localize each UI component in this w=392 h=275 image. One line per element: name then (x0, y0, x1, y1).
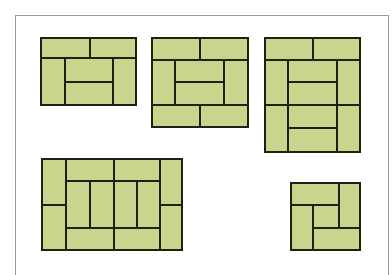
tatami-mat (151, 59, 176, 106)
tatami-mat (113, 227, 161, 251)
tatami-mat (336, 59, 361, 106)
tatami-mat (174, 81, 225, 106)
tatami-mat (40, 57, 66, 106)
tatami-mat (312, 37, 361, 61)
tatami-mat (312, 227, 361, 251)
tatami-mat (287, 127, 338, 153)
tatami-mat (65, 180, 91, 229)
tatami-mat (199, 104, 249, 128)
tatami-mat (199, 37, 249, 61)
tatami-mat (113, 180, 138, 229)
tatami-mat (40, 37, 91, 59)
tatami-mat (64, 81, 114, 106)
tatami-mat (41, 204, 67, 251)
tatami-mat (151, 37, 201, 61)
tatami-mat (159, 158, 183, 206)
tatami-mat (264, 59, 289, 106)
tatami-mat (65, 227, 115, 251)
tatami-mat (290, 204, 314, 251)
tatami-mat (264, 37, 314, 61)
tatami-mat (264, 104, 289, 153)
tatami-mat (64, 57, 114, 83)
tatami-mat (41, 158, 67, 206)
tatami-mat (151, 104, 201, 128)
tatami-mat (112, 57, 137, 106)
tatami-mat (89, 37, 137, 59)
tatami-mat (89, 180, 115, 229)
tatami-mat (290, 182, 340, 206)
tatami-mat (312, 204, 340, 229)
tatami-mat (159, 204, 183, 251)
tatami-mat (113, 158, 161, 182)
tatami-mat (287, 104, 338, 129)
tatami-mat (287, 81, 338, 106)
tatami-mat (287, 59, 338, 83)
tatami-mat (223, 59, 249, 106)
tatami-mat (338, 182, 361, 229)
tatami-mat (174, 59, 225, 83)
tatami-mat (65, 158, 115, 182)
tatami-mat (336, 104, 361, 153)
tatami-mat (136, 180, 161, 229)
